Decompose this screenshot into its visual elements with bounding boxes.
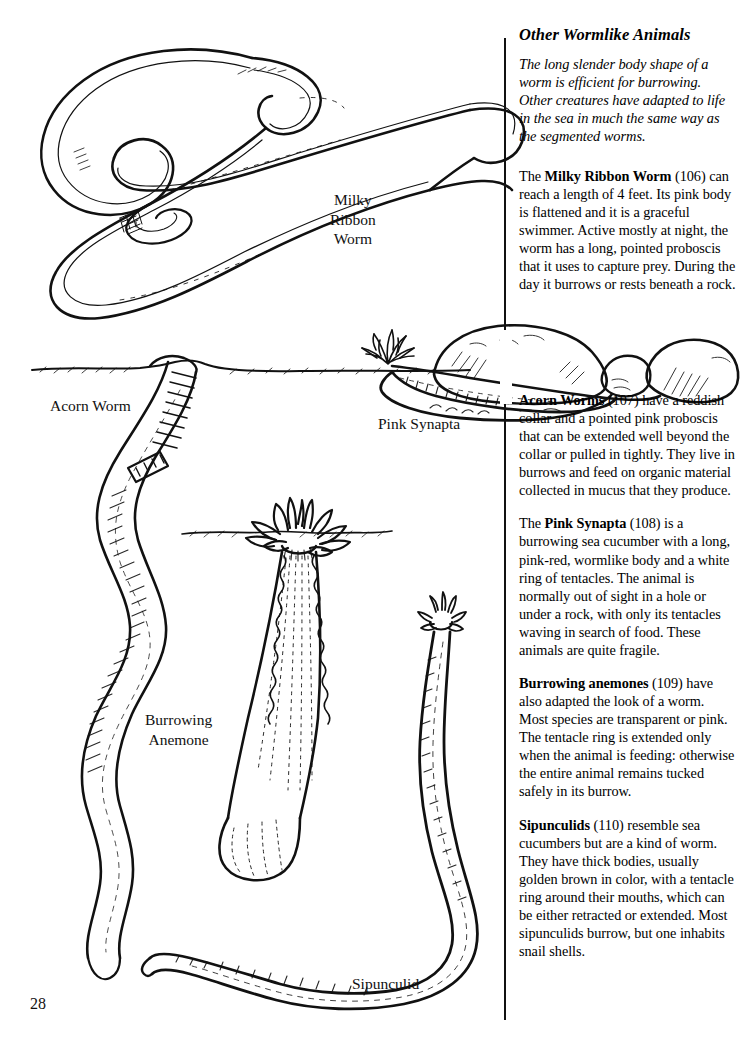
- entry-milky-ribbon-worm: The Milky Ribbon Worm (106) can reach a …: [519, 167, 737, 293]
- entry-lead: Burrowing anemones: [519, 675, 649, 691]
- entry-lead: Acorn Worms: [519, 392, 604, 408]
- entry-lead: Milky Ribbon Worm: [545, 168, 672, 184]
- label-milky-ribbon-worm: Milky Ribbon Worm: [330, 190, 376, 249]
- entry-prefix: The: [519, 168, 545, 184]
- milky-ribbon-worm-drawing: [41, 49, 524, 318]
- entry-rest: (106) can reach a length of 4 feet. Its …: [519, 168, 735, 292]
- intro-paragraph: The long slender body shape of a worm is…: [519, 55, 737, 145]
- label-burrowing-anemone: Burrowing Anemone: [145, 710, 212, 749]
- seafloor-line-anemone: [182, 531, 392, 537]
- sidebar-text-column: Other Wormlike Animals The long slender …: [519, 26, 737, 1026]
- entry-rest: (108) is a burrowing sea cucumber with a…: [519, 515, 730, 657]
- field-guide-page: Milky Ribbon Worm Acorn Worm Pink Synapt…: [0, 0, 745, 1048]
- entry-acorn-worms: Acorn Worms (107) have a reddish collar …: [519, 391, 737, 499]
- column-divider-gap: [500, 330, 512, 404]
- entry-burrowing-anemones: Burrowing anemones (109) have also adapt…: [519, 674, 737, 800]
- page-number: 28: [30, 995, 46, 1013]
- entry-rest: (110) resemble sea cucumbers but are a k…: [519, 817, 734, 959]
- entry-prefix: The: [519, 515, 545, 531]
- sipunculid-drawing: [142, 592, 477, 1009]
- entry-lead: Pink Synapta: [545, 515, 627, 531]
- acorn-worm-drawing: [82, 356, 197, 979]
- label-acorn-worm: Acorn Worm: [50, 396, 131, 416]
- entry-lead: Sipunculids: [519, 817, 590, 833]
- label-pink-synapta: Pink Synapta: [378, 414, 460, 434]
- entry-pink-synapta: The Pink Synapta (108) is a burrowing se…: [519, 514, 737, 658]
- entry-rest: (109) have also adapted the look of a wo…: [519, 675, 734, 799]
- label-sipunculid: Sipunculid: [352, 974, 419, 994]
- column-divider-rule: [504, 38, 506, 1020]
- page-title: Other Wormlike Animals: [519, 26, 737, 44]
- burrowing-anemone-drawing: [219, 498, 350, 880]
- entry-sipunculids: Sipunculids (110) resemble sea cucumbers…: [519, 816, 737, 960]
